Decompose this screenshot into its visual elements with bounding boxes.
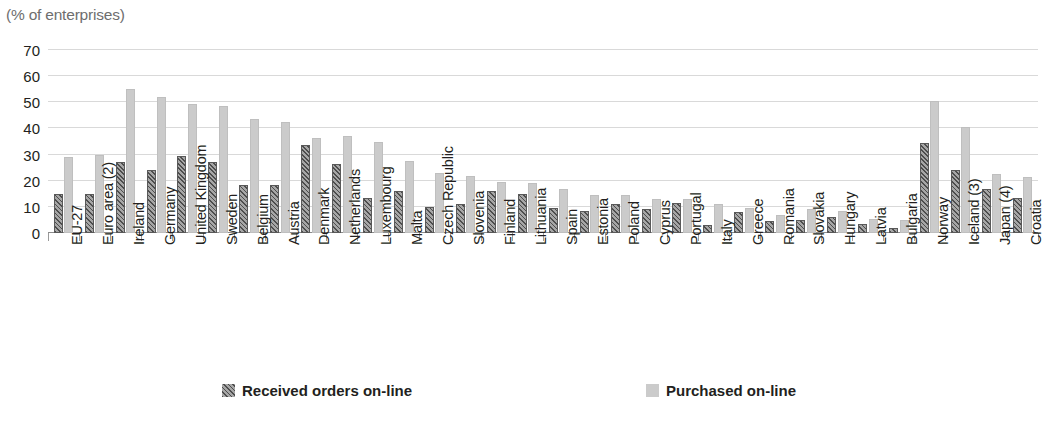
bar-received-orders bbox=[580, 211, 589, 233]
x-axis-label-romania: Romania bbox=[781, 188, 797, 245]
x-axis-label-sweden: Sweden bbox=[224, 194, 240, 245]
bar-received-orders bbox=[951, 170, 960, 233]
x-axis-label-malta: Malta bbox=[409, 211, 425, 245]
bar-received-orders bbox=[177, 156, 186, 233]
bar-received-orders bbox=[703, 225, 712, 233]
bar-received-orders bbox=[487, 191, 496, 233]
x-axis-label-austria: Austria bbox=[286, 201, 302, 245]
bar-received-orders bbox=[394, 191, 403, 233]
x-axis-label-germany: Germany bbox=[162, 187, 178, 245]
x-axis-label-united-kingdom: United Kingdom bbox=[193, 145, 209, 245]
legend-label: Purchased on-line bbox=[666, 382, 796, 399]
bar-received-orders bbox=[456, 204, 465, 233]
bar-received-orders bbox=[332, 164, 341, 233]
bar-received-orders bbox=[672, 203, 681, 233]
legend-item-purchased[interactable]: Purchased on-line bbox=[646, 382, 796, 399]
y-tick-label-30: 30 bbox=[0, 146, 40, 163]
bar-received-orders bbox=[116, 162, 125, 233]
y-tick-label-60: 60 bbox=[0, 68, 40, 85]
bar-received-orders bbox=[239, 185, 248, 233]
x-axis-label-poland: Poland bbox=[626, 201, 642, 245]
legend-swatch-received-icon bbox=[222, 384, 235, 397]
x-axis-label-spain: Spain bbox=[564, 209, 580, 245]
bar-received-orders bbox=[611, 204, 620, 233]
bar-received-orders bbox=[1013, 198, 1022, 233]
bar-received-orders bbox=[642, 209, 651, 233]
bar-received-orders bbox=[85, 194, 94, 233]
x-axis-label-croatia: Croatia bbox=[1028, 200, 1044, 245]
bar-received-orders bbox=[363, 198, 372, 233]
x-axis-label-slovenia: Slovenia bbox=[471, 191, 487, 245]
bar-received-orders bbox=[734, 212, 743, 233]
bar-received-orders bbox=[301, 145, 310, 233]
y-tick-label-20: 20 bbox=[0, 172, 40, 189]
bar-received-orders bbox=[920, 143, 929, 233]
x-axis-label-japan-4: Japan (4) bbox=[997, 186, 1013, 245]
legend-label: Received orders on-line bbox=[242, 382, 412, 399]
x-axis-label-portugal: Portugal bbox=[688, 193, 704, 245]
x-axis-label-denmark: Denmark bbox=[316, 188, 332, 245]
x-axis-labels: EU-27Euro area (2)IrelandGermanyUnited K… bbox=[48, 243, 1038, 363]
x-axis-label-finland: Finland bbox=[502, 199, 518, 245]
bar-received-orders bbox=[982, 189, 991, 233]
bar-received-orders bbox=[425, 207, 434, 233]
x-axis-label-ireland: Ireland bbox=[131, 202, 147, 245]
x-axis-label-luxembourg: Luxembourg bbox=[378, 166, 394, 245]
bar-received-orders bbox=[270, 185, 279, 233]
chart-subtitle: (% of enterprises) bbox=[6, 6, 125, 24]
x-axis-label-norway: Norway bbox=[935, 197, 951, 245]
legend-swatch-purchased-icon bbox=[646, 384, 659, 397]
y-tick-label-10: 10 bbox=[0, 198, 40, 215]
x-axis-label-czech-republic: Czech Republic bbox=[440, 146, 456, 245]
x-axis-label-latvia: Latvia bbox=[873, 208, 889, 246]
chart-legend: Received orders on-linePurchased on-line bbox=[0, 382, 1044, 412]
bar-received-orders bbox=[208, 162, 217, 233]
x-axis-label-lithuania: Lithuania bbox=[533, 188, 549, 245]
x-tick bbox=[48, 233, 49, 241]
x-axis-label-euro-area-2: Euro area (2) bbox=[100, 162, 116, 245]
x-axis-label-eu-27: EU-27 bbox=[69, 205, 85, 245]
y-tick-label-70: 70 bbox=[0, 42, 40, 59]
x-axis-label-iceland-3: Iceland (3) bbox=[966, 179, 982, 245]
bar-received-orders bbox=[858, 224, 867, 233]
bar-received-orders bbox=[147, 170, 156, 233]
bar-received-orders bbox=[765, 221, 774, 233]
x-axis-label-cyprus: Cyprus bbox=[657, 200, 673, 245]
x-axis-label-hungary: Hungary bbox=[842, 192, 858, 245]
y-tick-label-50: 50 bbox=[0, 94, 40, 111]
x-axis-label-netherlands: Netherlands bbox=[347, 169, 363, 245]
x-axis-label-slovakia: Slovakia bbox=[811, 192, 827, 245]
y-tick-label-40: 40 bbox=[0, 120, 40, 137]
chart-container: (% of enterprises) 010203040506070 EU-27… bbox=[0, 0, 1044, 421]
y-axis-labels: 010203040506070 bbox=[0, 50, 40, 233]
x-axis-label-belgium: Belgium bbox=[255, 194, 271, 245]
legend-item-received[interactable]: Received orders on-line bbox=[222, 382, 412, 399]
y-tick-label-0: 0 bbox=[0, 225, 40, 242]
x-axis-label-greece: Greece bbox=[750, 199, 766, 245]
bar-received-orders bbox=[549, 208, 558, 233]
x-axis-label-bulgaria: Bulgaria bbox=[904, 193, 920, 245]
bar-received-orders bbox=[518, 194, 527, 233]
bar-received-orders bbox=[796, 220, 805, 233]
bar-received-orders bbox=[54, 194, 63, 233]
x-axis-label-estonia: Estonia bbox=[595, 198, 611, 245]
bar-received-orders bbox=[827, 217, 836, 233]
x-axis-label-italy: Italy bbox=[719, 219, 735, 245]
